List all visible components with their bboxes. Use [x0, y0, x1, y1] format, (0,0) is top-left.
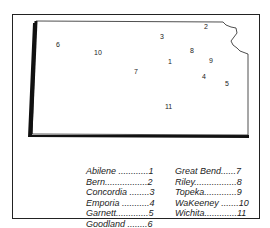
legend-item: Garnett.............5 — [86, 208, 155, 219]
legend-item: WaKeeney .......10 — [175, 198, 249, 209]
map-label-1: 1 — [168, 58, 172, 65]
legend-item: Wichita.............11 — [175, 208, 249, 219]
legend-item: Abilene ............1 — [86, 166, 155, 177]
legend-item: Topeka.............9 — [175, 187, 249, 198]
legend-item: Bern.................2 — [86, 177, 155, 188]
map-label-4: 4 — [202, 73, 206, 80]
map-label-10: 10 — [94, 49, 102, 56]
map-label-5: 5 — [225, 80, 229, 87]
map-label-11: 11 — [165, 103, 172, 110]
kansas-outline — [32, 21, 248, 135]
map-label-7: 7 — [134, 68, 138, 75]
map-label-6: 6 — [56, 41, 60, 48]
map-label-8: 8 — [190, 47, 194, 54]
legend-item: Riley.................8 — [175, 177, 249, 188]
legend-item: Goodland ........6 — [86, 219, 155, 228]
map-label-2: 2 — [204, 23, 208, 30]
legend-item: Great Bend......7 — [175, 166, 249, 177]
legend-right-column: Great Bend......7 Riley.................… — [175, 166, 249, 219]
map-label-3: 3 — [160, 33, 164, 40]
legend-item: Emporia ...........4 — [86, 198, 155, 209]
legend-item: Concordia ........3 — [86, 187, 155, 198]
map-label-9: 9 — [209, 57, 213, 64]
legend-left-column: Abilene ............1 Bern..............… — [86, 166, 155, 228]
